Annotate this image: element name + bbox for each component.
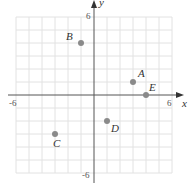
y-tick-max: 6	[86, 11, 91, 21]
x-tick-max: 6	[167, 98, 172, 108]
coordinate-plane: x y -6 6 6 -6 ABCDE	[0, 0, 191, 187]
point-d: D	[104, 118, 119, 134]
axes: x y -6 6 6 -6	[8, 0, 187, 183]
point-label: A	[137, 67, 145, 79]
point-label: D	[110, 122, 119, 134]
y-axis-label: y	[98, 0, 104, 8]
y-tick-min: -6	[82, 170, 90, 180]
x-tick-min: -6	[9, 98, 17, 108]
y-axis-arrow-icon	[91, 0, 97, 8]
point-label: E	[148, 81, 156, 93]
point-label: B	[66, 30, 73, 42]
point-marker	[104, 118, 110, 124]
point-marker	[78, 40, 84, 46]
point-marker	[130, 79, 136, 85]
x-axis-label: x	[181, 97, 187, 109]
point-label: C	[53, 137, 61, 149]
